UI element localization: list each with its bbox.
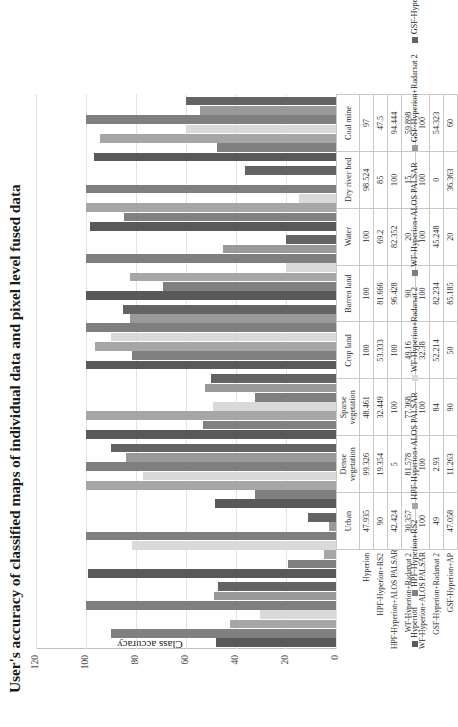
table-row: HPF-Hyperion+ALOS PALSAR42.424510010096.… bbox=[388, 95, 402, 650]
bar bbox=[130, 273, 336, 282]
table-row: HPF-Hyperion+RS29019.35432.44953.33381.6… bbox=[374, 95, 388, 650]
bar bbox=[86, 115, 336, 124]
legend-swatch-icon bbox=[412, 270, 418, 276]
category-group bbox=[36, 510, 336, 579]
bar bbox=[86, 323, 336, 332]
table-row-header: GSF-Hyperion+AP bbox=[444, 550, 458, 650]
plot-area: Class accuracy 120100806040200 bbox=[36, 94, 336, 649]
bar bbox=[286, 235, 336, 244]
y-axis-tick-label: 60 bbox=[180, 655, 190, 683]
table-cell: 60 bbox=[444, 95, 458, 152]
table-cell: 52.214 bbox=[430, 322, 444, 379]
table-column-header: Dry river bed bbox=[337, 151, 360, 208]
bar bbox=[186, 97, 336, 106]
table-cell: 69.2 bbox=[374, 208, 388, 265]
table-cell: 19.354 bbox=[374, 436, 388, 493]
bar bbox=[143, 472, 336, 481]
legend-item[interactable]: GSF-Hyperion+Radarsat 2 bbox=[410, 54, 419, 151]
table-cell: 94.444 bbox=[388, 95, 402, 152]
table-row-header: Hyperion bbox=[360, 550, 374, 650]
category-group bbox=[36, 163, 336, 232]
legend-swatch-icon bbox=[412, 590, 418, 596]
category-group bbox=[36, 94, 336, 163]
legend-label: HPF-Hyperion+RS2 bbox=[410, 520, 419, 587]
bar bbox=[211, 374, 336, 383]
table-cell: 100 bbox=[388, 322, 402, 379]
bar bbox=[214, 592, 337, 601]
bar bbox=[329, 522, 336, 531]
data-table: UrbanDense vegetationSparse vegetationCr… bbox=[336, 94, 458, 649]
table-cell: 85 bbox=[374, 151, 388, 208]
table-row-header: HPF-Hyperion+ALOS PALSAR bbox=[388, 550, 402, 650]
bar bbox=[86, 462, 336, 471]
bar bbox=[288, 560, 336, 569]
legend-label: WF-Hyperion+ALOS PALSAR bbox=[410, 162, 419, 267]
table-column-header: Sparse vegetation bbox=[337, 379, 360, 436]
legend-swatch-icon bbox=[412, 641, 418, 647]
table-row: GSF-Hyperion+Radarsat 2492.938452.21482.… bbox=[430, 95, 444, 650]
legend-label: GSF-Hyperion+Radarsat 2 bbox=[410, 54, 419, 142]
bar bbox=[132, 541, 336, 550]
table-header-row: UrbanDense vegetationSparse vegetationCr… bbox=[337, 95, 360, 650]
table-cell: 48.461 bbox=[360, 379, 374, 436]
table-cell: 84 bbox=[430, 379, 444, 436]
legend-item[interactable]: HPF-Hyperion+RS2 bbox=[410, 520, 419, 596]
bar bbox=[86, 601, 336, 610]
table-cell: 36.363 bbox=[444, 151, 458, 208]
category-group bbox=[36, 233, 336, 302]
table-cell: 11.263 bbox=[444, 436, 458, 493]
legend-swatch-icon bbox=[412, 375, 418, 381]
table-cell: 96.428 bbox=[388, 265, 402, 322]
bar bbox=[100, 134, 336, 143]
legend-item[interactable]: HPF-Hyperion+ALOS PALSAR bbox=[410, 392, 419, 508]
table-cell: 100 bbox=[360, 208, 374, 265]
y-axis-tick-label: 20 bbox=[280, 655, 290, 683]
bar bbox=[216, 638, 336, 647]
legend-label: HPF-Hyperion+ALOS PALSAR bbox=[410, 392, 419, 499]
bar bbox=[95, 342, 336, 351]
page-title: User's accuracy of classified maps of in… bbox=[6, 0, 24, 727]
bar bbox=[203, 421, 336, 430]
table-cell: 97 bbox=[360, 95, 374, 152]
legend-item[interactable]: WF-Hyperion+ALOS PALSAR bbox=[410, 162, 419, 276]
table-cell: 49 bbox=[430, 493, 444, 550]
legend-item[interactable]: WF-Hyperion+Radarsat 2 bbox=[410, 287, 419, 381]
legend-item[interactable]: GSF-Hyperion+AP bbox=[410, 0, 419, 43]
legend-swatch-icon bbox=[412, 145, 418, 151]
bar bbox=[126, 453, 336, 462]
bar bbox=[86, 185, 336, 194]
bar bbox=[255, 393, 336, 402]
table-row: GSF-Hyperion+AP47.05811.263905085.185203… bbox=[444, 95, 458, 650]
table-row-header: GSF-Hyperion+Radarsat 2 bbox=[430, 550, 444, 650]
bar bbox=[86, 430, 336, 439]
table-cell: 2.93 bbox=[430, 436, 444, 493]
y-axis-tick-label: 40 bbox=[230, 655, 240, 683]
table-cell: 47.058 bbox=[444, 493, 458, 550]
table-column-header: Coal mine bbox=[337, 95, 360, 152]
bar bbox=[86, 411, 336, 420]
table-cell: 90 bbox=[374, 493, 388, 550]
legend-swatch-icon bbox=[412, 37, 418, 43]
table-cell: 20 bbox=[444, 208, 458, 265]
bar bbox=[308, 513, 336, 522]
table-cell: 99.326 bbox=[360, 436, 374, 493]
table-cell: 50 bbox=[444, 322, 458, 379]
legend-item[interactable]: Hyperion bbox=[410, 607, 419, 647]
table-cell: 81.666 bbox=[374, 265, 388, 322]
bar bbox=[130, 314, 336, 323]
bar bbox=[324, 550, 337, 559]
table-body: Hyperion47.93599.32648.46110010010098.52… bbox=[360, 95, 458, 650]
chart-legend: HyperionHPF-Hyperion+RS2HPF-Hyperion+ALO… bbox=[410, 0, 419, 647]
table-column-header: Crop land bbox=[337, 322, 360, 379]
bar bbox=[213, 402, 336, 411]
table-cell: 0 bbox=[430, 151, 444, 208]
bar bbox=[88, 569, 336, 578]
table-corner bbox=[337, 550, 360, 650]
bar bbox=[124, 213, 337, 222]
bar bbox=[111, 444, 336, 453]
legend-label: WF-Hyperion+Radarsat 2 bbox=[410, 287, 419, 372]
bar bbox=[223, 245, 336, 254]
bar bbox=[217, 143, 336, 152]
